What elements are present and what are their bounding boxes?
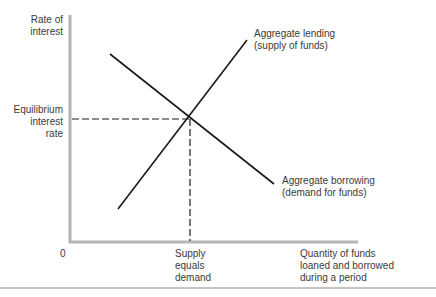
x-axis-label-line: during a period	[300, 272, 394, 284]
demand-curve-label: Aggregate borrowing (demand for funds)	[282, 175, 375, 199]
equilibrium-quantity-label-line: demand	[175, 272, 211, 284]
equilibrium-rate-label-line: Equilibrium	[14, 104, 63, 116]
origin-label: 0	[60, 248, 66, 260]
y-axis-label-line: interest	[30, 26, 63, 38]
demand-curve-label-line: (demand for funds)	[282, 187, 375, 199]
equilibrium-rate-label-line: rate	[14, 128, 63, 140]
equilibrium-quantity-label-line: Supply	[175, 248, 211, 260]
equilibrium-rate-label-line: interest	[14, 116, 63, 128]
demand-curve-label-line: Aggregate borrowing	[282, 175, 375, 187]
y-axis-label: Rate of interest	[30, 14, 63, 38]
supply-curve-label-line: (supply of funds)	[254, 40, 335, 52]
supply-curve-label-line: Aggregate lending	[254, 28, 335, 40]
x-axis-label: Quantity of funds loaned and borrowed du…	[300, 248, 394, 284]
y-axis-label-line: Rate of	[30, 14, 63, 26]
equilibrium-rate-label: Equilibrium interest rate	[14, 104, 63, 140]
x-axis-label-line: Quantity of funds	[300, 248, 394, 260]
equilibrium-quantity-label-line: equals	[175, 260, 211, 272]
equilibrium-quantity-label: Supply equals demand	[175, 248, 211, 284]
supply-curve-label: Aggregate lending (supply of funds)	[254, 28, 335, 52]
supply-curve	[118, 40, 247, 209]
x-axis-label-line: loaned and borrowed	[300, 260, 394, 272]
